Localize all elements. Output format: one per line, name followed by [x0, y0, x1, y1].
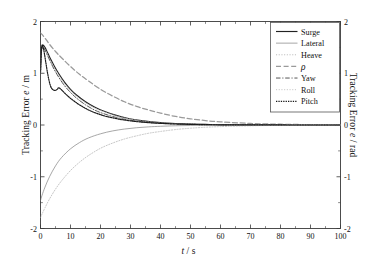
x-tick-label: 10: [67, 232, 75, 241]
x-axis-title: t / s: [0, 246, 377, 256]
legend-label: Pitch: [301, 97, 318, 106]
x-axis-title-var: t: [181, 246, 184, 256]
y-tick-label-left: 1: [33, 69, 37, 78]
chart-figure: 0102030405060708090100-2-2-1-1001122 Sur…: [0, 0, 377, 266]
x-tick-label: 70: [247, 232, 255, 241]
legend-label: Roll: [301, 86, 316, 95]
y-tick-label-left: -2: [30, 225, 37, 234]
x-tick-label: 30: [127, 232, 135, 241]
y-axis-left-title-var: e: [21, 90, 31, 94]
x-tick-label: 40: [157, 232, 165, 241]
plot-canvas: 0102030405060708090100-2-2-1-1001122 Sur…: [0, 0, 377, 266]
y-tick-label-left: 2: [33, 18, 37, 27]
x-axis-title-unit: / s: [187, 246, 196, 256]
x-tick-label: 0: [39, 232, 43, 241]
y-tick-label-right: 2: [344, 18, 348, 27]
legend-label: Heave: [301, 51, 322, 60]
x-tick-label: 20: [97, 232, 105, 241]
x-tick-label: 90: [307, 232, 315, 241]
x-tick-label: 50: [187, 232, 195, 241]
y-tick-label-right: -2: [344, 225, 351, 234]
y-tick-label-left: -1: [30, 173, 37, 182]
y-axis-left-title-pre: Tracking Error: [21, 95, 31, 155]
y-tick-label-left: 0: [33, 121, 37, 130]
series-line-lateral: [41, 125, 341, 201]
x-tick-label: 80: [277, 232, 285, 241]
legend-label: ρ: [300, 62, 306, 72]
legend-label: Yaw: [301, 74, 316, 83]
x-tick-label: 60: [217, 232, 225, 241]
chart-legend: SurgeLateralHeaveρYawRollPitch: [271, 23, 340, 113]
y-axis-left-title-unit: / m: [21, 75, 31, 90]
y-axis-left-title: Tracking Error e / m: [21, 45, 31, 185]
y-axis-right-title-unit: / rad: [348, 137, 358, 157]
y-axis-right-title-pre: Tracking Error: [348, 73, 358, 133]
legend-label: Surge: [301, 28, 320, 37]
legend-label: Lateral: [301, 39, 325, 48]
y-axis-right-title: Tracking Error e / rad: [348, 45, 358, 185]
